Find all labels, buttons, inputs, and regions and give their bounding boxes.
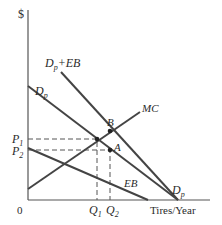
- point-mc-dp: [95, 137, 100, 142]
- dp-plus-eb-curve: [61, 72, 178, 200]
- point-b-label: B: [107, 116, 114, 128]
- point-b: [108, 129, 113, 134]
- x-axis-label: Tires/Year: [150, 204, 196, 216]
- point-a: [108, 148, 113, 153]
- y-axis-label: $: [18, 7, 24, 21]
- origin-label: 0: [17, 204, 23, 216]
- eb-label: EB: [123, 177, 138, 189]
- q2-label: Q2: [106, 203, 119, 219]
- dp-end-label: Dp: [171, 183, 185, 199]
- externality-diagram: $ 0 Tires/Year Dp+EB Dp MC EB Dp P1 P2 Q…: [0, 0, 222, 225]
- dp-plus-eb-label: Dp+EB: [44, 56, 81, 72]
- p2-q2-guide: [28, 150, 110, 200]
- mc-label: MC: [141, 102, 159, 114]
- point-a-label: A: [113, 141, 121, 153]
- q1-label: Q1: [89, 203, 102, 219]
- dp-label: Dp: [34, 84, 48, 100]
- eb-curve: [28, 148, 148, 200]
